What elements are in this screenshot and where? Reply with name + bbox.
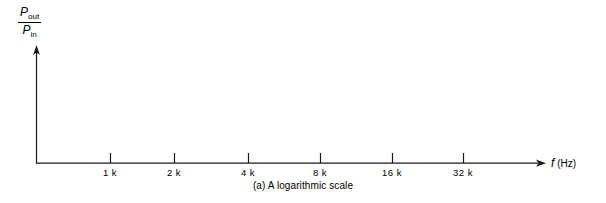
fraction-denominator: Pin xyxy=(18,23,41,39)
p-out-subscript: out xyxy=(28,12,39,21)
tick-label-4k: 4 k xyxy=(241,167,255,178)
fraction-numerator: Pout xyxy=(18,6,41,23)
axes-drawing xyxy=(0,0,606,203)
p-in-subscript: in xyxy=(30,30,36,39)
tick-label-2k: 2 k xyxy=(167,167,181,178)
y-axis-label: Pout Pin xyxy=(18,6,41,39)
tick-label-8k: 8 k xyxy=(313,167,327,178)
tick-label-32k: 32 k xyxy=(453,167,473,178)
tick-label-1k: 1 k xyxy=(103,167,117,178)
frequency-symbol: f xyxy=(551,156,554,170)
tick-label-16k: 16 k xyxy=(382,167,402,178)
p-out-symbol: P xyxy=(20,5,28,19)
figure-caption: (a) A logarithmic scale xyxy=(0,180,606,191)
logarithmic-scale-figure: Pout Pin 1 k 2 k 4 k 8 k 16 k 32 k f (Hz… xyxy=(0,0,606,203)
power-ratio-fraction: Pout Pin xyxy=(18,6,41,39)
x-axis-ticks xyxy=(111,153,464,163)
frequency-units: (Hz) xyxy=(557,158,576,169)
x-axis-label: f (Hz) xyxy=(551,156,576,170)
